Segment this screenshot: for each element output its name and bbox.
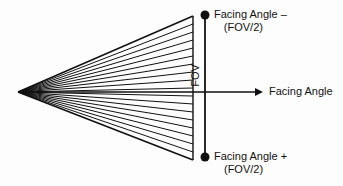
fov-lower-endpoint-dot-icon xyxy=(201,153,210,162)
upper-bound-label: Facing Angle – (FOV/2) xyxy=(214,8,287,34)
facing-angle-axis-label: Facing Angle xyxy=(269,85,333,98)
lower-bound-label-line1: Facing Angle + xyxy=(214,150,287,162)
fov-extent-label-text: FOV xyxy=(189,58,202,93)
upper-bound-label-line1: Facing Angle – xyxy=(214,8,287,20)
fov-extent-label: FOV xyxy=(189,58,202,92)
fov-upper-endpoint-dot-icon xyxy=(201,11,210,20)
facing-angle-arrowhead-icon xyxy=(255,88,263,96)
upper-bound-label-line2: (FOV/2) xyxy=(214,21,287,34)
fov-diagram-figure: Facing Angle – (FOV/2) Facing Angle + (F… xyxy=(0,0,343,186)
lower-bound-label: Facing Angle + (FOV/2) xyxy=(214,150,287,176)
lower-bound-label-line2: (FOV/2) xyxy=(214,163,287,176)
fov-ray-fan xyxy=(18,16,193,160)
